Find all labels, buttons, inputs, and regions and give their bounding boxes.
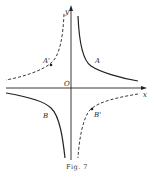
point-a-label: A	[94, 57, 100, 65]
y-axis-arrow-icon	[69, 5, 73, 11]
axes	[6, 5, 147, 160]
x-axis-arrow-icon	[141, 86, 147, 90]
point-b-prime-label: B'	[93, 111, 101, 119]
origin-label: O	[64, 80, 70, 88]
branch-quadrant-4-dashed	[78, 94, 138, 158]
point-b-label: B	[42, 112, 48, 120]
branch-quadrant-2-dashed	[6, 14, 64, 80]
point-a-prime-label: A'	[42, 57, 50, 65]
figure-caption: Fig. 7	[0, 163, 154, 171]
hyperbola-diagram: y x O A A' B B'	[0, 0, 154, 183]
point-a-prime	[50, 64, 53, 67]
point-b-prime	[91, 108, 94, 111]
branch-quadrant-3	[6, 93, 65, 158]
x-axis-label: x	[143, 91, 147, 99]
branch-quadrant-1	[78, 16, 138, 81]
y-axis-label: y	[64, 8, 70, 16]
